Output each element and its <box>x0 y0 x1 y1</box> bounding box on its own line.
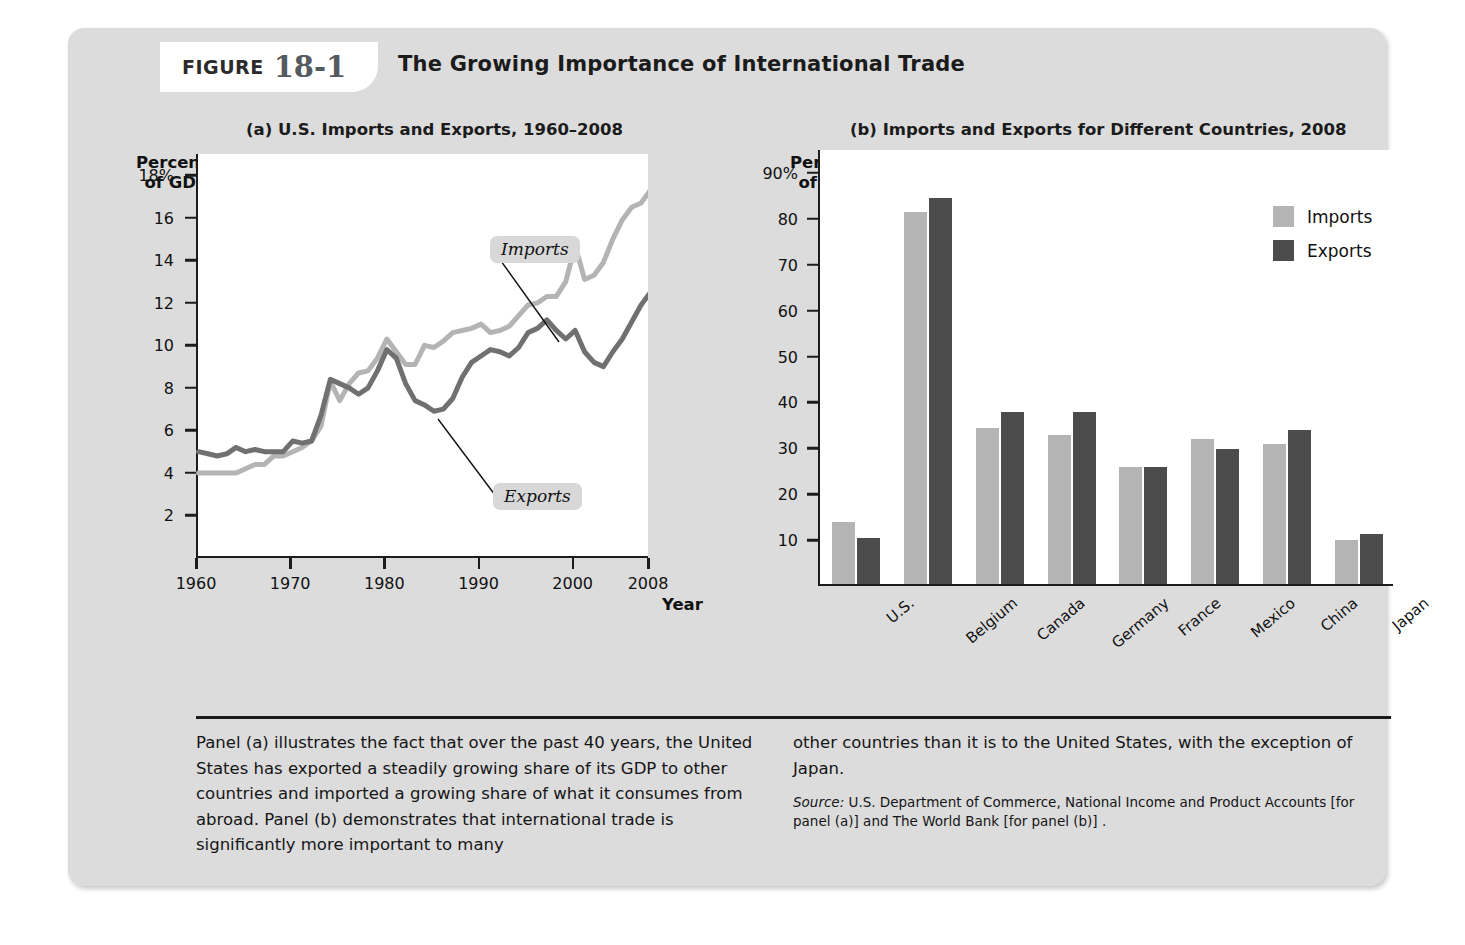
line-series-imports <box>198 190 648 473</box>
y-tick-mark <box>807 493 818 496</box>
x-tick-mark <box>478 558 481 569</box>
x-tick-label: 1960 <box>176 574 217 593</box>
category-label-germany: Germany <box>1108 594 1172 652</box>
x-tick-mark <box>195 558 198 569</box>
category-label-us: U.S. <box>883 594 918 627</box>
x-tick-mark <box>572 558 575 569</box>
bar-imports-us <box>832 522 855 584</box>
category-label-china: China <box>1317 594 1361 635</box>
y-tick-label: 10 <box>738 531 798 550</box>
bar-exports-germany <box>1073 412 1096 584</box>
caption-divider <box>196 716 1391 719</box>
y-tick-mark <box>807 172 818 175</box>
panel-b-subtitle: (b) Imports and Exports for Different Co… <box>850 120 1346 139</box>
y-tick-mark <box>185 259 196 262</box>
y-tick-mark <box>185 514 196 517</box>
panel-a-x-axis-title: Year <box>662 595 703 614</box>
y-tick-label: 8 <box>114 378 174 397</box>
line-series-exports <box>198 292 648 456</box>
panel-a-subtitle: (a) U.S. Imports and Exports, 1960–2008 <box>246 120 623 139</box>
y-tick-mark <box>185 429 196 432</box>
y-tick-mark <box>807 309 818 312</box>
y-tick-mark <box>807 401 818 404</box>
y-tick-mark <box>185 174 196 177</box>
legend-item-exports: Exports <box>1273 240 1372 261</box>
y-tick-mark <box>807 355 818 358</box>
category-label-belgium: Belgium <box>962 594 1021 647</box>
category-label-japan: Japan <box>1389 594 1433 635</box>
legend-item-imports: Imports <box>1273 206 1372 227</box>
exports-series-tag: Exports <box>493 483 582 510</box>
y-tick-label: 50 <box>738 347 798 366</box>
y-tick-label: 12 <box>114 293 174 312</box>
bar-exports-us <box>857 538 880 584</box>
caption-left-column: Panel (a) illustrates the fact that over… <box>196 730 771 858</box>
bar-imports-china <box>1263 444 1286 584</box>
category-label-mexico: Mexico <box>1248 594 1300 641</box>
legend-label-exports: Exports <box>1307 241 1372 261</box>
figure-number-badge: FIGURE 18-1 <box>160 42 378 92</box>
bar-chart-legend: Imports Exports <box>1273 206 1372 274</box>
legend-swatch-exports-icon <box>1273 240 1294 261</box>
source-text: U.S. Department of Commerce, National In… <box>793 794 1354 829</box>
x-tick-mark <box>289 558 292 569</box>
bar-imports-mexico <box>1191 439 1214 584</box>
bar-exports-japan <box>1360 534 1383 584</box>
y-tick-mark <box>185 387 196 390</box>
category-label-france: France <box>1175 594 1225 640</box>
y-tick-label: 30 <box>738 439 798 458</box>
y-tick-label: 2 <box>114 506 174 525</box>
y-tick-label: 4 <box>114 463 174 482</box>
y-tick-mark <box>185 344 196 347</box>
x-tick-label: 1990 <box>458 574 499 593</box>
category-label-canada: Canada <box>1033 594 1088 644</box>
y-tick-label: 16 <box>114 208 174 227</box>
y-tick-label: 6 <box>114 421 174 440</box>
bar-imports-canada <box>976 428 999 584</box>
y-tick-mark <box>185 217 196 220</box>
figure-number: 18-1 <box>274 50 347 84</box>
bar-imports-belgium <box>904 212 927 584</box>
y-tick-label: 80 <box>738 209 798 228</box>
source-note: Source: U.S. Department of Commerce, Nat… <box>793 793 1363 831</box>
y-tick-mark <box>185 302 196 305</box>
exports-leader-line <box>438 419 498 499</box>
bar-exports-belgium <box>929 198 952 584</box>
x-tick-label: 2000 <box>552 574 593 593</box>
y-tick-label: 14 <box>114 251 174 270</box>
x-tick-label: 2008 <box>628 574 669 593</box>
caption-right-text: other countries than it is to the United… <box>793 730 1363 781</box>
y-tick-mark <box>807 218 818 221</box>
y-tick-mark <box>807 447 818 450</box>
source-label: Source: <box>793 794 844 810</box>
figure-label-word: FIGURE <box>182 56 264 78</box>
bar-imports-germany <box>1048 435 1071 584</box>
y-tick-label: 10 <box>114 336 174 355</box>
bar-exports-canada <box>1001 412 1024 584</box>
y-tick-label: 20 <box>738 485 798 504</box>
x-tick-label: 1970 <box>270 574 311 593</box>
y-tick-mark <box>185 472 196 475</box>
x-tick-label: 1980 <box>364 574 405 593</box>
caption-right-column: other countries than it is to the United… <box>793 730 1363 831</box>
y-tick-label: 18% <box>114 166 174 185</box>
bar-imports-japan <box>1335 540 1358 584</box>
bar-imports-france <box>1119 467 1142 584</box>
bar-exports-china <box>1288 430 1311 584</box>
figure-title: The Growing Importance of International … <box>398 52 965 76</box>
x-tick-mark <box>647 558 650 569</box>
y-tick-mark <box>807 539 818 542</box>
bar-exports-france <box>1144 467 1167 584</box>
bar-exports-mexico <box>1216 449 1239 584</box>
legend-label-imports: Imports <box>1307 207 1372 227</box>
y-tick-label: 90% <box>738 163 798 182</box>
legend-swatch-imports-icon <box>1273 206 1294 227</box>
y-tick-label: 40 <box>738 393 798 412</box>
y-tick-label: 60 <box>738 301 798 320</box>
y-tick-label: 70 <box>738 255 798 274</box>
figure-panel: FIGURE 18-1 The Growing Importance of In… <box>68 28 1386 886</box>
y-tick-mark <box>807 263 818 266</box>
imports-series-tag: Imports <box>490 236 580 263</box>
x-tick-mark <box>383 558 386 569</box>
